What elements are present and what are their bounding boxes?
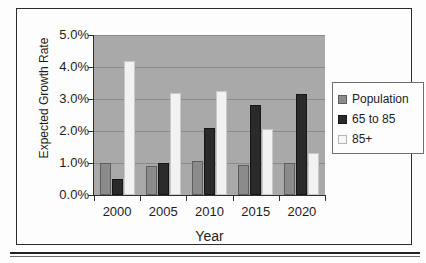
- bar-group: [233, 35, 279, 195]
- legend-swatch-icon: [338, 95, 347, 104]
- chart-page: 0.0%1.0%2.0%3.0%4.0%5.0% 200020052010201…: [0, 0, 426, 263]
- bar-oldest: [124, 61, 135, 195]
- legend-item: 65 to 85: [338, 109, 423, 129]
- bar-oldest: [262, 129, 273, 195]
- x-tick-label: 2000: [94, 205, 140, 219]
- legend-label: Population: [352, 93, 409, 105]
- legend-item: 85+: [338, 129, 423, 149]
- bar-older: [296, 94, 307, 195]
- bar-population: [284, 163, 295, 195]
- bar-population: [238, 165, 249, 195]
- bar-series-container: [94, 35, 325, 195]
- bar-group: [94, 35, 140, 195]
- bar-population: [146, 166, 157, 195]
- bar-older: [204, 128, 215, 195]
- x-tick-mark: [186, 196, 187, 201]
- bar-group: [140, 35, 186, 195]
- bar-older: [250, 105, 261, 195]
- y-tick-label: 0.0%: [43, 188, 89, 201]
- bar-older: [112, 179, 123, 195]
- bar-group: [279, 35, 325, 195]
- legend-item: Population: [338, 89, 423, 109]
- x-axis-title: Year: [94, 228, 325, 244]
- y-axis-title: Expected Growth Rate: [37, 23, 51, 173]
- x-tick-mark: [140, 196, 141, 201]
- legend-label: 85+: [352, 133, 372, 145]
- x-tick-label: 2015: [233, 205, 279, 219]
- x-tick-label: 2010: [187, 205, 233, 219]
- x-tick-mark: [94, 196, 95, 201]
- bar-older: [158, 163, 169, 195]
- page-rule-thick: [10, 252, 420, 254]
- legend-swatch-icon: [338, 115, 347, 124]
- x-tick-label: 2005: [140, 205, 186, 219]
- x-tick-mark: [279, 196, 280, 201]
- legend-swatch-icon: [338, 135, 347, 144]
- legend-label: 65 to 85: [352, 113, 395, 125]
- bar-oldest: [216, 91, 227, 195]
- bar-oldest: [170, 93, 181, 195]
- x-tick-mark: [325, 196, 326, 201]
- chart-frame: 0.0%1.0%2.0%3.0%4.0%5.0% 200020052010201…: [16, 8, 412, 245]
- bar-population: [192, 161, 203, 195]
- page-rule-thin: [10, 256, 420, 257]
- x-axis-line: [93, 195, 326, 196]
- chart-legend: Population65 to 8585+: [332, 82, 424, 154]
- bar-population: [100, 163, 111, 195]
- x-tick-label: 2020: [279, 205, 325, 219]
- x-tick-mark: [233, 196, 234, 201]
- bar-group: [186, 35, 232, 195]
- bar-oldest: [308, 153, 319, 195]
